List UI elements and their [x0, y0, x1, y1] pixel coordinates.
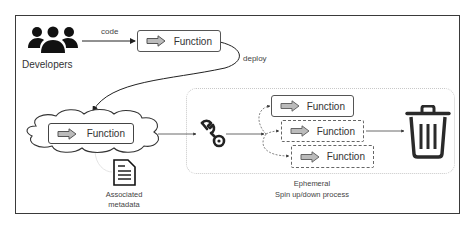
trash-can-icon: [405, 105, 451, 159]
ephemeral-caption-line1: Ephemeral: [252, 178, 372, 189]
metadata-label-line2: metadata: [94, 200, 154, 210]
deploy-label: deploy: [243, 54, 267, 63]
developers-label: Developers: [22, 59, 73, 70]
ephemeral-function-box-1: Function: [271, 95, 354, 117]
ephemeral-caption: Ephemeral Spin up/down process: [252, 178, 372, 200]
branch-1: [259, 106, 270, 134]
source-function-box: Function: [137, 30, 221, 52]
function-label: Function: [307, 101, 345, 112]
right-arrow-icon: [146, 35, 166, 47]
wrench-icon: [198, 119, 226, 149]
ephemeral-function-box-2: Function: [281, 120, 364, 142]
right-arrow-icon: [300, 151, 320, 163]
metadata-label: Associated metadata: [94, 190, 154, 210]
metadata-label-line1: Associated: [94, 190, 154, 200]
branch-2: [266, 131, 279, 134]
deploy-arrow: [93, 42, 239, 111]
people-group-icon: [28, 26, 78, 56]
function-label: Function: [327, 151, 365, 162]
cloud-function-box: Function: [48, 123, 134, 144]
right-arrow-icon: [280, 100, 300, 112]
code-label: code: [101, 27, 118, 36]
ephemeral-function-box-3: Function: [291, 145, 374, 168]
right-arrow-icon: [290, 125, 310, 137]
function-label: Function: [87, 128, 125, 139]
function-label: Function: [174, 36, 212, 47]
function-label: Function: [317, 126, 355, 137]
right-arrow-icon: [57, 128, 77, 140]
document-icon: [113, 159, 136, 186]
ephemeral-caption-line2: Spin up/down process: [252, 189, 372, 200]
